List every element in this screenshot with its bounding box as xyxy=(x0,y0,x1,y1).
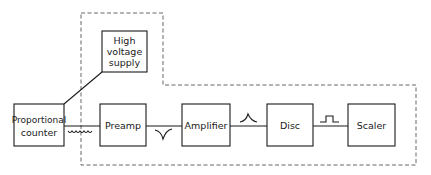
block-proportional-counter: Proportional counter xyxy=(12,104,66,146)
counter-label-line-1: Proportional xyxy=(12,115,66,125)
amplifier-label: Amplifier xyxy=(185,120,228,131)
block-amplifier: Amplifier xyxy=(182,104,230,146)
negative-pulse-icon xyxy=(155,129,172,139)
hv-label-line-2: voltage xyxy=(107,46,143,57)
block-disc: Disc xyxy=(267,104,313,146)
square-pulse-icon xyxy=(320,116,339,122)
hv-label-line-1: High xyxy=(114,35,136,46)
disc-label: Disc xyxy=(280,120,300,131)
block-scaler: Scaler xyxy=(348,104,395,146)
block-preamp: Preamp xyxy=(100,104,146,146)
scaler-label: Scaler xyxy=(357,120,387,131)
gaussian-pulse-icon xyxy=(240,114,257,122)
block-diagram: High voltage supply Proportional counter… xyxy=(0,0,431,175)
preamp-label: Preamp xyxy=(105,120,141,131)
counter-label-line-2: counter xyxy=(21,127,58,138)
noise-coil-icon xyxy=(68,131,92,133)
hv-label-line-3: supply xyxy=(109,57,141,68)
hv-connection-line xyxy=(64,72,102,104)
block-high-voltage-supply: High voltage supply xyxy=(102,31,147,72)
